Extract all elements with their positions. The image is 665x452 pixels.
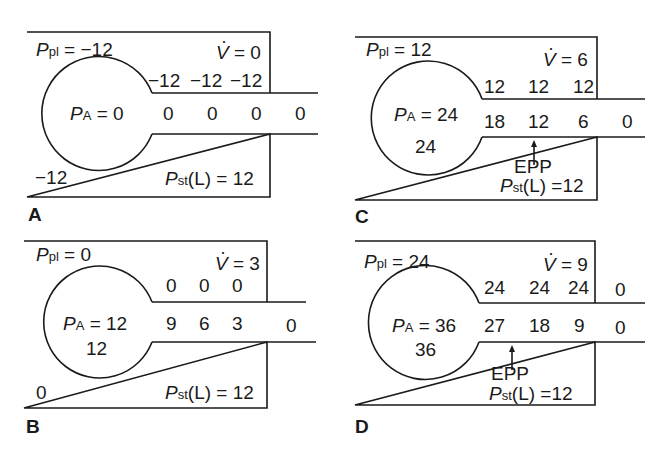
panel-label: C	[355, 207, 369, 226]
pleural-pressure-label: Ppl = 12	[366, 40, 432, 59]
airway-wall-pressure: 12	[528, 77, 549, 96]
pleural-pressure-label: Ppl = 24	[364, 252, 430, 271]
airway-lumen-pressure: 0	[622, 112, 633, 131]
alveolar-inner-pressure: 24	[415, 137, 436, 156]
pleural-pressure-label: Ppl = 0	[36, 245, 91, 264]
airway-lumen-pressure: 6	[578, 112, 589, 131]
alveolar-inner-pressure: 36	[415, 340, 436, 359]
airway-lumen-pressure: 12	[528, 112, 549, 131]
airway-wall-pressure: 0	[166, 276, 177, 295]
airway-lumen-pressure: 0	[286, 316, 297, 335]
airway-lumen-pressure: 18	[529, 316, 550, 335]
lung-recoil-pressure-label: Pst(L) =12	[500, 176, 584, 195]
airway-lumen-pressure: 0	[615, 318, 626, 337]
panel-c-epp-arrowhead	[531, 140, 537, 147]
flow-label: V = 0	[216, 43, 261, 62]
lung-recoil-pressure-label: Pst(L) = 12	[165, 383, 254, 402]
airway-wall-pressure: 0	[199, 276, 210, 295]
flow-label: V = 3	[215, 254, 260, 273]
airway-wall-pressure: −12	[230, 71, 262, 90]
pleural-corner-pressure: −12	[35, 168, 67, 187]
airway-lumen-pressure: 9	[166, 314, 177, 333]
equal-pressure-point-label: EPP	[514, 157, 552, 176]
airway-lumen-pressure: 6	[199, 314, 210, 333]
airway-lumen-pressure: 9	[574, 316, 585, 335]
airway-lumen-pressure: 0	[251, 104, 262, 123]
airway-lumen-pressure: 0	[163, 104, 174, 123]
airway-lumen-pressure: 0	[207, 104, 218, 123]
lung-recoil-pressure-label: Pst(L) = 12	[165, 169, 254, 188]
airway-wall-pressure: 12	[484, 77, 505, 96]
panel-d-epp-arrowhead	[509, 345, 515, 352]
flow-label: V = 9	[543, 255, 588, 274]
lung-recoil-pressure-label: Pst(L) =12	[489, 384, 573, 403]
airway-lumen-pressure: 27	[484, 316, 505, 335]
pleural-corner-pressure: 0	[36, 383, 47, 402]
equal-pressure-point-label: EPP	[491, 364, 529, 383]
alveolar-inner-pressure: 12	[86, 339, 107, 358]
airway-wall-pressure: 24	[568, 278, 589, 297]
airway-lumen-pressure: 3	[232, 314, 243, 333]
airway-wall-pressure: 12	[573, 77, 594, 96]
alveolar-pressure-label: PA = 0	[70, 104, 124, 123]
airway-wall-pressure: 24	[529, 278, 550, 297]
pleural-pressure-label: Ppl = −12	[36, 40, 113, 59]
alveolar-pressure-label: PA = 12	[63, 314, 127, 333]
panel-label: D	[355, 417, 369, 436]
airway-outside-pressure: 0	[615, 280, 626, 299]
airway-wall-pressure: −12	[148, 71, 180, 90]
airway-wall-pressure: 24	[484, 278, 505, 297]
flow-label: V = 6	[543, 50, 588, 69]
airway-wall-pressure: 0	[232, 276, 243, 295]
alveolar-pressure-label: PA = 36	[392, 316, 456, 335]
panel-label: B	[26, 417, 40, 436]
airway-lumen-pressure: 0	[295, 104, 306, 123]
panel-label: A	[28, 205, 42, 224]
alveolar-pressure-label: PA = 24	[394, 105, 458, 124]
airway-lumen-pressure: 18	[484, 112, 505, 131]
airway-wall-pressure: −12	[190, 71, 222, 90]
